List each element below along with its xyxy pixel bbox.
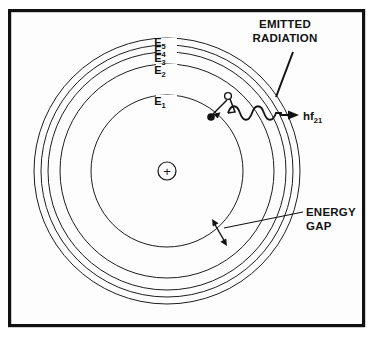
electron-ground-state-marker bbox=[207, 113, 215, 121]
emitted-radiation-line2: RADIATION bbox=[253, 32, 318, 44]
bohr-atom-diagram: E1 E2 E3 E4 E5 + hf21 bbox=[0, 0, 374, 337]
energy-gap-line1: ENERGY bbox=[306, 206, 356, 218]
electron-excited-state-marker bbox=[225, 93, 232, 100]
nucleus: + bbox=[158, 162, 176, 180]
figure-frame bbox=[10, 11, 364, 326]
nucleus-plus-sign: + bbox=[163, 164, 171, 179]
diagram-canvas: E1 E2 E3 E4 E5 + hf21 bbox=[0, 0, 374, 337]
emitted-radiation-line1: EMITTED bbox=[259, 18, 311, 30]
energy-gap-line2: GAP bbox=[306, 220, 332, 232]
